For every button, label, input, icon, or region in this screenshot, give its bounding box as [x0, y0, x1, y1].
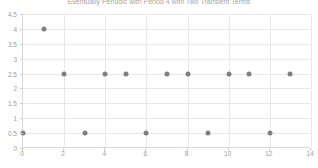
y-axis-tick-label: 2: [13, 85, 17, 92]
y-axis-tick-label: 0.5: [8, 130, 17, 137]
data-points: [23, 14, 310, 147]
data-point: [62, 71, 67, 76]
y-axis-tick: [20, 133, 23, 134]
y-axis-labels: 00.511.522.533.544.5: [0, 14, 20, 148]
x-axis-tick: [310, 148, 311, 151]
y-axis-tick-label: 2.5: [8, 70, 17, 77]
y-axis-tick: [20, 59, 23, 60]
data-point: [226, 71, 231, 76]
y-axis-tick-label: 1: [13, 115, 17, 122]
y-axis-tick: [20, 14, 23, 15]
x-axis-tick-label: 14: [306, 150, 313, 158]
data-point: [267, 131, 272, 136]
data-point: [185, 71, 190, 76]
x-axis-tick-label: 10: [224, 150, 231, 158]
y-axis-tick-label: 3.5: [8, 40, 17, 47]
data-point: [123, 71, 128, 76]
x-axis-tick: [228, 148, 229, 151]
data-point: [82, 131, 87, 136]
data-point: [206, 131, 211, 136]
vertical-gridline: [311, 14, 312, 147]
plot-area: [22, 14, 310, 148]
data-point: [103, 71, 108, 76]
x-axis-tick: [104, 148, 105, 151]
data-point: [288, 71, 293, 76]
x-axis-tick-label: 4: [102, 150, 106, 158]
x-axis-tick-label: 0: [20, 150, 24, 158]
y-axis-tick: [20, 44, 23, 45]
x-axis-tick-label: 12: [265, 150, 272, 158]
y-axis-tick-label: 0: [13, 145, 17, 152]
chart-title: Eventually Periodic with Period 4 with T…: [0, 0, 318, 6]
y-axis-tick-label: 4: [13, 25, 17, 32]
y-axis-tick: [20, 118, 23, 119]
x-axis-tick: [145, 148, 146, 151]
scatter-chart: Eventually Periodic with Period 4 with T…: [0, 0, 318, 168]
y-axis-tick-label: 4.5: [8, 11, 17, 18]
data-point: [41, 26, 46, 31]
x-axis-tick-label: 6: [144, 150, 148, 158]
x-axis-tick-label: 2: [61, 150, 65, 158]
y-axis-tick: [20, 103, 23, 104]
y-axis-tick-label: 3: [13, 55, 17, 62]
data-point: [165, 71, 170, 76]
x-axis-tick: [22, 148, 23, 151]
x-axis-tick-label: 8: [185, 150, 189, 158]
x-axis-labels: 02468101214: [22, 150, 310, 164]
data-point: [144, 131, 149, 136]
data-point: [247, 71, 252, 76]
y-axis-tick: [20, 88, 23, 89]
y-axis-tick-label: 1.5: [8, 100, 17, 107]
y-axis-tick: [20, 74, 23, 75]
x-axis-tick: [63, 148, 64, 151]
x-axis-tick: [269, 148, 270, 151]
x-axis-tick: [187, 148, 188, 151]
y-axis-tick: [20, 29, 23, 30]
